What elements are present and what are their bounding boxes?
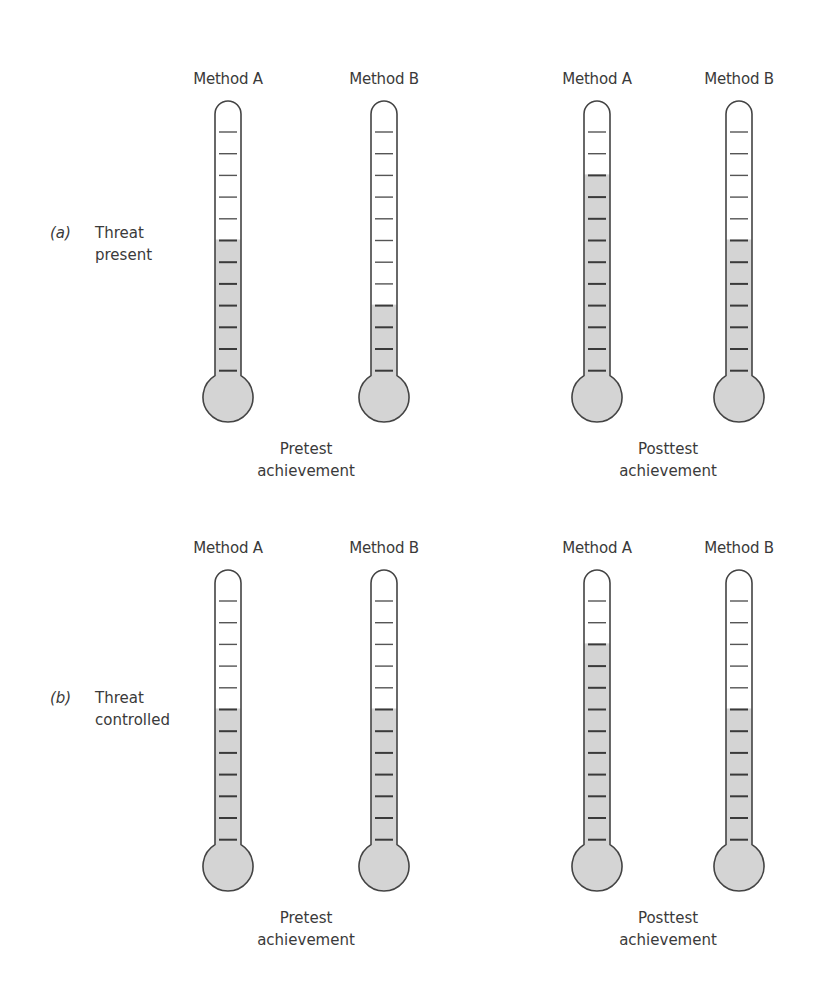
- thermometer-posttest-method-a: [572, 101, 622, 422]
- mercury-fill: [371, 709, 397, 847]
- mercury-fill: [726, 709, 752, 847]
- mercury-fill: [215, 709, 241, 847]
- thermometer-posttest-method-a: [572, 570, 622, 891]
- thermometer-pretest-method-b: [359, 570, 409, 891]
- mercury-fill: [584, 174, 610, 377]
- thermometer-posttest-method-b: [714, 101, 764, 422]
- thermometer-pretest-method-b: [359, 101, 409, 422]
- thermometer-pretest-method-a: [203, 570, 253, 891]
- mercury-fill: [371, 305, 397, 378]
- mercury-fill: [584, 643, 610, 846]
- mercury-fill: [215, 240, 241, 378]
- thermometer-pretest-method-a: [203, 101, 253, 422]
- thermometer-posttest-method-b: [714, 570, 764, 891]
- mercury-fill: [726, 240, 752, 378]
- thermometer-diagram: [0, 0, 820, 1004]
